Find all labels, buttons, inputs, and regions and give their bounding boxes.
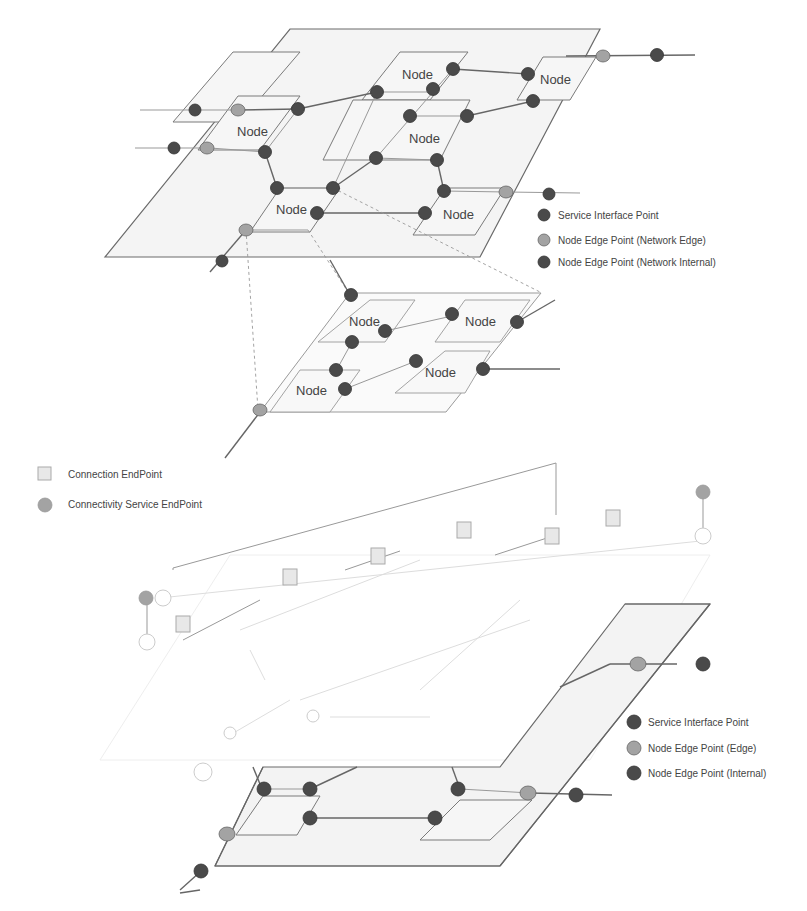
middle-layer: Node Node Node Node [225,260,560,458]
node-label: Node [425,365,456,380]
node-label: Node [296,383,327,398]
node-edge-point-network-internal-icon [538,256,550,268]
legend-label: Service Interface Point [648,717,749,728]
connection-endpoint [283,569,297,585]
node-label: Node [465,314,496,329]
connection-endpoint [176,616,190,632]
legend-label: Service Interface Point [558,210,659,221]
node-label: Node [349,314,380,329]
node-label: Node [540,72,571,87]
connection-endpoint [606,510,620,526]
connectivity-service-endpoint-icon [38,498,52,512]
connectivity-legend: Connection EndPoint Connectivity Service… [38,467,202,512]
node-edge-point-edge-icon [627,741,641,755]
connection-endpoint [371,548,385,564]
node-label: Node [237,124,268,139]
legend-label: Node Edge Point (Network Internal) [558,257,716,268]
connectivity-service-endpoint [696,485,710,499]
node-label: Node [276,202,307,217]
legend-label: Connectivity Service EndPoint [68,499,202,510]
node-edge-point-network-edge-icon [538,234,550,246]
connection-endpoint [457,522,471,538]
top-legend: Service Interface Point Node Edge Point … [538,209,716,268]
node-edge-point-internal-icon [627,766,641,780]
legend-label: Node Edge Point (Edge) [648,743,756,754]
node-label: Node [409,131,440,146]
service-interface-point-icon [538,209,550,221]
legend-label: Connection EndPoint [68,469,162,480]
connectivity-service-endpoint [139,591,153,605]
connection-endpoint [545,528,559,544]
network-topology-diagram: Node Node Node Node Node Node Service In… [0,0,807,911]
connection-endpoint-icon [38,467,51,480]
node-label: Node [402,67,433,82]
bottom-legend: Service Interface Point Node Edge Point … [627,715,766,780]
bottom-layer: Service Interface Point Node Edge Point … [180,604,766,893]
service-interface-point-icon [627,715,641,729]
legend-label: Node Edge Point (Internal) [648,768,766,779]
node-label: Node [443,207,474,222]
legend-label: Node Edge Point (Network Edge) [558,235,706,246]
